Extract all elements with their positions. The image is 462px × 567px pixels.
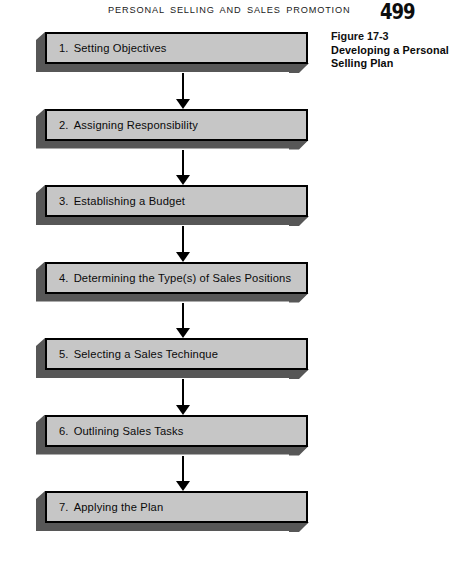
flow-step-number: 7. [59,501,69,513]
flow-step-number: 1. [59,42,69,54]
flow-step-label: 1.Setting Objectives [59,42,167,54]
flow-step-label: 3.Establishing a Budget [59,195,185,207]
flow-step-number: 2. [59,119,69,131]
flow-step-label: 7.Applying the Plan [59,501,163,513]
flow-step-box: 6.Outlining Sales Tasks [36,415,308,463]
arrow-shaft [182,379,184,406]
flow-step-box: 7.Applying the Plan [36,491,308,539]
arrow-shaft [182,303,184,330]
box-face: 1.Setting Objectives [45,32,308,64]
flow-step-box: 5.Selecting a Sales Techinque [36,338,308,386]
flow-step-text: Applying the Plan [74,501,164,513]
flowchart: 1.Setting Objectives2.Assigning Responsi… [0,0,462,567]
flow-step-number: 3. [59,195,69,207]
box-extrusion-corner [289,446,309,456]
box-face: 6.Outlining Sales Tasks [45,415,308,447]
arrow-head-icon [176,405,190,415]
flow-step-number: 6. [59,425,69,437]
box-face: 5.Selecting a Sales Techinque [45,338,308,370]
flow-step-box: 3.Establishing a Budget [36,185,308,233]
flow-step-label: 5.Selecting a Sales Techinque [59,348,218,360]
flow-step-number: 5. [59,348,69,360]
box-face: 7.Applying the Plan [45,491,308,523]
box-face: 3.Establishing a Budget [45,185,308,217]
flow-step-text: Determining the Type(s) of Sales Positio… [74,272,292,284]
box-extrusion-corner [289,369,309,379]
flow-step-text: Setting Objectives [74,42,167,54]
flow-connector-arrow [176,456,190,492]
flow-step-box: 1.Setting Objectives [36,32,308,80]
flow-step-label: 2.Assigning Responsibility [59,119,198,131]
box-extrusion-corner [289,63,309,73]
box-extrusion-corner [289,293,309,303]
arrow-head-icon [176,175,190,185]
arrow-head-icon [176,328,190,338]
flow-step-box: 4.Determining the Type(s) of Sales Posit… [36,262,308,310]
flow-step-text: Establishing a Budget [74,195,185,207]
flow-connector-arrow [176,150,190,186]
figure-page: PERSONAL SELLING AND SALES PROMOTION 499… [0,0,462,567]
flow-connector-arrow [176,379,190,415]
flow-step-label: 6.Outlining Sales Tasks [59,425,184,437]
box-extrusion-corner [289,522,309,532]
box-extrusion-corner [289,216,309,226]
arrow-head-icon [176,252,190,262]
flow-connector-arrow [176,303,190,339]
arrow-head-icon [176,99,190,109]
flow-step-text: Selecting a Sales Techinque [74,348,218,360]
box-face: 4.Determining the Type(s) of Sales Posit… [45,262,308,294]
flow-step-text: Outlining Sales Tasks [74,425,184,437]
arrow-shaft [182,73,184,100]
arrow-shaft [182,456,184,483]
flow-step-number: 4. [59,272,69,284]
box-extrusion-corner [289,140,309,150]
box-face: 2.Assigning Responsibility [45,109,308,141]
flow-step-text: Assigning Responsibility [74,119,198,131]
flow-connector-arrow [176,226,190,262]
arrow-head-icon [176,481,190,491]
arrow-shaft [182,226,184,253]
flow-connector-arrow [176,73,190,109]
arrow-shaft [182,150,184,177]
flow-step-box: 2.Assigning Responsibility [36,109,308,157]
flow-step-label: 4.Determining the Type(s) of Sales Posit… [59,272,291,284]
